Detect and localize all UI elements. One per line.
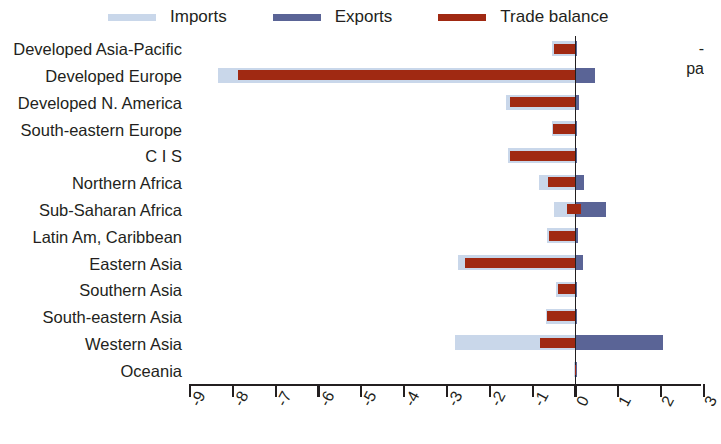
bar-trade-balance: [553, 124, 576, 134]
category-axis-labels: Developed Asia-PacificDeveloped EuropeDe…: [0, 36, 186, 384]
category-label: Northern Africa: [0, 174, 182, 192]
bar-exports: [576, 148, 578, 163]
chart-row: [190, 304, 704, 331]
bar-trade-balance: [510, 151, 576, 161]
chart-row: [190, 223, 704, 250]
bar-exports: [576, 228, 578, 243]
legend-label-imports: Imports: [170, 7, 227, 27]
chart-row: [190, 116, 704, 143]
edge-note-line-1: -: [664, 40, 704, 58]
bar-trade-balance: [547, 311, 576, 321]
chart-row: [190, 250, 704, 277]
bar-exports: [576, 41, 578, 56]
bar-exports: [576, 335, 664, 350]
edge-note-line-2: pa: [664, 60, 704, 78]
axis-tick-label: 2: [658, 393, 678, 409]
category-label: Developed Asia-Pacific: [0, 40, 182, 58]
category-label: Southern Asia: [0, 281, 182, 299]
category-label: Developed N. America: [0, 94, 182, 112]
legend-label-exports: Exports: [335, 7, 393, 27]
bar-exports: [576, 121, 577, 136]
chart-row: [190, 90, 704, 117]
plot-area: [190, 36, 704, 384]
chart-row: [190, 170, 704, 197]
bar-trade-balance: [567, 204, 581, 214]
category-label: Latin Am, Caribbean: [0, 228, 182, 246]
category-label: Sub-Saharan Africa: [0, 201, 182, 219]
bar-trade-balance: [238, 70, 576, 80]
bar-trade-balance: [465, 258, 576, 268]
chart-row: [190, 277, 704, 304]
chart-row: [190, 36, 704, 63]
legend-swatch-imports: [108, 14, 156, 21]
chart-row: [190, 63, 704, 90]
category-label: Western Asia: [0, 335, 182, 353]
legend-swatch-exports: [273, 14, 321, 21]
category-label: South-eastern Europe: [0, 121, 182, 139]
bar-trade-balance: [558, 284, 576, 294]
category-label: South-eastern Asia: [0, 308, 182, 326]
chart-legend: Imports Exports Trade balance: [0, 2, 704, 32]
chart-row: [190, 357, 704, 384]
axis-tick-label: 0: [573, 393, 593, 409]
axis-tick-label: 1: [615, 393, 635, 409]
legend-label-trade-balance: Trade balance: [500, 7, 608, 27]
legend-item-exports: Exports: [273, 7, 393, 27]
category-label: Eastern Asia: [0, 255, 182, 273]
category-label: Developed Europe: [0, 67, 182, 85]
legend-item-imports: Imports: [108, 7, 227, 27]
bar-exports: [576, 68, 596, 83]
bar-exports: [576, 95, 579, 110]
bar-exports: [576, 255, 583, 270]
axis-tick-label: -5: [358, 388, 381, 409]
bar-exports: [576, 175, 585, 190]
bar-trade-balance: [540, 338, 576, 348]
bar-trade-balance: [549, 231, 575, 241]
chart-row: [190, 330, 704, 357]
category-label: C I S: [0, 147, 182, 165]
bar-trade-balance: [548, 177, 576, 187]
bar-trade-balance: [510, 97, 576, 107]
bar-trade-balance: [554, 44, 576, 54]
bar-exports: [576, 282, 577, 297]
bar-trade-balance: [575, 365, 576, 375]
axis-tick-label: 3: [701, 393, 721, 409]
legend-item-trade-balance: Trade balance: [438, 7, 608, 27]
value-axis: -9-8-7-6-5-4-3-2-10123: [190, 384, 704, 444]
bar-exports: [576, 309, 577, 324]
legend-swatch-trade-balance: [438, 14, 486, 21]
category-label: Oceania: [0, 362, 182, 380]
chart-row: [190, 143, 704, 170]
axis-tick-label: -4: [401, 388, 424, 409]
chart-row: [190, 197, 704, 224]
